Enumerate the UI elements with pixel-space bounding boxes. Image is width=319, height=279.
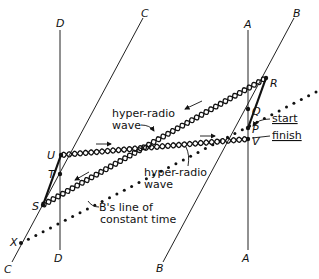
annotation-finish: finish [272, 129, 302, 142]
constant-time-dot [292, 102, 295, 105]
constant-time-dot [241, 128, 244, 131]
label-x: X [9, 236, 18, 249]
event-r [264, 76, 268, 80]
label-b-top: B [293, 7, 301, 20]
label-r: R [270, 77, 278, 90]
constant-time-dot [79, 211, 82, 214]
constant-time-dot [34, 234, 37, 237]
constant-time-dot [189, 155, 192, 158]
annotation-constant-time-2: constant time [100, 213, 176, 226]
event-v [246, 137, 250, 141]
constant-time-dot [285, 106, 288, 109]
pointer-constant-time [88, 201, 99, 207]
constant-time-dot [27, 238, 30, 241]
event-s [41, 203, 45, 207]
event-q [246, 107, 250, 111]
constant-time-dot [56, 223, 59, 226]
annotation-lower-wave-2: wave [144, 178, 173, 191]
event-p [246, 126, 250, 130]
constant-time-dot [204, 147, 207, 150]
arrow-upper-wave-direction [185, 101, 202, 109]
constant-time-dot [197, 151, 200, 154]
constant-time-dot [182, 158, 185, 161]
constant-time-dot [123, 189, 126, 192]
constant-time-dot [115, 192, 118, 195]
constant-time-dot [64, 219, 67, 222]
label-q: Q [252, 105, 261, 118]
event-t [58, 172, 62, 176]
constant-time-dot [130, 185, 133, 188]
event-u [59, 153, 63, 157]
pointer-upper-wave [141, 125, 154, 131]
constant-time-dot [42, 230, 45, 233]
pointer-lower-wave [186, 147, 189, 166]
annotation-start: start [272, 112, 298, 125]
constant-time-dot [315, 91, 318, 94]
constant-time-dot [71, 215, 74, 218]
label-d-bottom: D [54, 252, 62, 265]
label-a-bottom: A [241, 252, 250, 265]
arrow-upper-wave-lower-direction [75, 172, 89, 180]
constant-time-dot [86, 208, 89, 211]
annotation-upper-wave-2: wave [112, 119, 141, 132]
label-s: S [32, 200, 39, 213]
label-a-top: A [243, 18, 252, 31]
label-u: U [47, 149, 55, 162]
constant-time-dot [233, 132, 236, 135]
constant-time-dot [300, 98, 303, 101]
spacetime-diagram: D D C C A A B B R Q P V U T S X hyper-ra… [0, 0, 319, 279]
label-c-bottom: C [4, 263, 12, 276]
constant-time-dot [49, 226, 52, 229]
constant-time-dot [307, 94, 310, 97]
label-d-top: D [56, 17, 64, 30]
constant-time-dot [138, 181, 141, 184]
label-b-bottom: B [156, 262, 164, 275]
constant-time-dot [174, 162, 177, 165]
event-x [19, 241, 23, 245]
diagram-canvas: D D C C A A B B R Q P V U T S X hyper-ra… [0, 0, 319, 279]
label-c-top: C [141, 7, 149, 20]
constant-time-dot [108, 196, 111, 199]
